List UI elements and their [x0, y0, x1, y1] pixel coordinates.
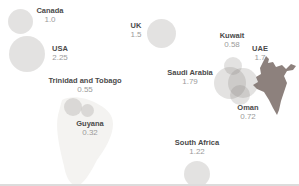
country-value: 0.58 — [220, 40, 245, 49]
label-south-africa: South Africa1.22 — [175, 138, 219, 156]
label-kuwait: Kuwait0.58 — [220, 31, 245, 49]
bubble-guyana — [81, 104, 94, 117]
label-saudi-arabia: Saudi Arabia1.79 — [167, 68, 213, 86]
label-uae: UAE1.7 — [252, 44, 268, 62]
label-guyana: Guyana0.32 — [76, 119, 104, 137]
bubble-south-africa — [184, 161, 210, 186]
country-value: 0.55 — [48, 85, 121, 94]
country-name: UK — [130, 21, 141, 30]
bubble-usa — [9, 36, 45, 72]
bubble-canada — [8, 9, 33, 34]
country-value: 1.79 — [167, 77, 213, 86]
country-value: 1.0 — [36, 15, 63, 24]
country-name: Canada — [36, 6, 63, 15]
label-usa: USA2.25 — [52, 44, 68, 62]
country-name: USA — [52, 44, 68, 53]
country-name: South Africa — [175, 138, 219, 147]
country-name: Guyana — [76, 119, 104, 128]
label-oman: Oman0.72 — [237, 103, 258, 121]
label-canada: Canada1.0 — [36, 6, 63, 24]
country-value: 2.25 — [52, 53, 68, 62]
bubble-trinidad-and-tobago — [64, 98, 82, 116]
country-name: Oman — [237, 103, 258, 112]
country-value: 0.72 — [237, 112, 258, 121]
country-name: Saudi Arabia — [167, 68, 213, 77]
india-shape — [253, 56, 296, 115]
country-value: 0.32 — [76, 128, 104, 137]
label-uk: UK1.5 — [130, 21, 141, 39]
label-trinidad-and-tobago: Trinidad and Tobago0.55 — [48, 76, 121, 94]
country-name: Kuwait — [220, 31, 245, 40]
country-value: 1.5 — [130, 30, 141, 39]
country-value: 1.22 — [175, 147, 219, 156]
country-name: Trinidad and Tobago — [48, 76, 121, 85]
bubble-oman — [230, 85, 250, 105]
country-name: UAE — [252, 44, 268, 53]
bubble-uk — [147, 19, 176, 48]
bubble-map-figure: Canada1.0USA2.25UK1.5Trinidad and Tobago… — [0, 0, 299, 186]
country-value: 1.7 — [252, 53, 268, 62]
